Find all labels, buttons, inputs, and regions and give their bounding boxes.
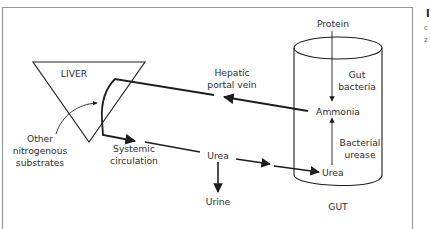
- gut-bacteria-label-2: bacteria: [338, 81, 376, 92]
- gut-bacteria-label: Gut: [349, 69, 366, 80]
- side-caption-glyph-2: c: [424, 24, 428, 32]
- liver-gut-nitrogen-diagram: LIVER Protein Gut bacteria Ammonia Bacte…: [0, 0, 431, 229]
- systemic-circulation-label-2: circulation: [110, 155, 158, 166]
- side-caption-glyph-3: z: [424, 36, 428, 44]
- urea-to-gut-arrow-2: [274, 166, 319, 172]
- blood-urea-label: Urea: [207, 150, 229, 161]
- side-caption-glyph-1: I: [426, 8, 430, 19]
- hepatic-portal-vein-line: [224, 97, 308, 111]
- other-substrates-label: Other: [27, 133, 53, 144]
- gut-label: GUT: [328, 201, 348, 212]
- systemic-circulation-label: Systemic: [113, 143, 155, 154]
- urea-to-gut-arrow-1: [236, 159, 270, 164]
- other-substrates-arrow: [56, 103, 97, 134]
- liver-label: LIVER: [61, 68, 88, 79]
- protein-label: Protein: [317, 18, 349, 29]
- bacterial-urease-label: Bacterial: [340, 137, 381, 148]
- ammonia-label: Ammonia: [316, 106, 360, 117]
- bacterial-urease-label-2: urease: [344, 149, 375, 160]
- other-substrates-label-3: substrates: [16, 157, 64, 168]
- liver-triangle-shape: [33, 62, 145, 142]
- liver-internal-flow-line: [102, 79, 214, 141]
- gut-urea-label: Urea: [322, 167, 344, 178]
- hepatic-portal-vein-label-2: portal vein: [207, 79, 257, 90]
- hepatic-portal-vein-label: Hepatic: [214, 67, 249, 78]
- urine-label: Urine: [206, 196, 231, 207]
- other-substrates-label-2: nitrogenous: [13, 145, 68, 156]
